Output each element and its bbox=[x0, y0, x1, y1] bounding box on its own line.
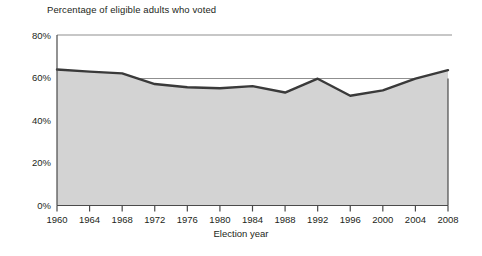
x-tick-label: 1988 bbox=[275, 214, 296, 225]
y-tick-label: 80% bbox=[32, 30, 52, 41]
x-tick-label: 2004 bbox=[405, 214, 426, 225]
x-tick-label: 2008 bbox=[437, 214, 458, 225]
y-tick-labels-group: 0%20%40%60%80% bbox=[32, 30, 52, 212]
x-tick-label: 1992 bbox=[307, 214, 328, 225]
y-tick-label: 40% bbox=[32, 115, 52, 126]
x-tick-label: 1964 bbox=[79, 214, 100, 225]
x-tick-label: 1984 bbox=[242, 214, 263, 225]
x-tick-label: 1976 bbox=[177, 214, 198, 225]
x-tick-label: 1960 bbox=[46, 214, 67, 225]
x-tick-label: 1980 bbox=[209, 214, 230, 225]
y-tick-label: 60% bbox=[32, 72, 52, 83]
plot-canvas: 0%20%40%60%80% 1960196419681972197619801… bbox=[0, 0, 482, 256]
x-tick-labels-group: 1960196419681972197619801984198819921996… bbox=[46, 214, 458, 225]
voter-turnout-chart: Percentage of eligible adults who voted … bbox=[0, 0, 482, 256]
x-tick-label: 2000 bbox=[372, 214, 393, 225]
x-tick-label: 1968 bbox=[112, 214, 133, 225]
x-tick-label: 1972 bbox=[144, 214, 165, 225]
y-tick-label: 20% bbox=[32, 157, 52, 168]
y-tick-label: 0% bbox=[37, 200, 51, 211]
x-axis-title: Election year bbox=[0, 228, 482, 239]
area-fill bbox=[57, 70, 448, 206]
x-tick-label: 1996 bbox=[340, 214, 361, 225]
x-tick-marks-group bbox=[57, 206, 448, 212]
